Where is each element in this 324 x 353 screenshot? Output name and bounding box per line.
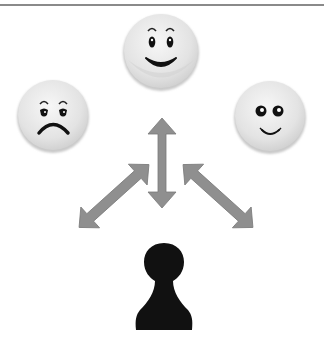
pawn-icon xyxy=(136,243,193,330)
happy-face-icon xyxy=(123,14,199,91)
double-arrow-icon-vertical xyxy=(148,118,176,208)
diagram-canvas xyxy=(0,0,324,353)
sad-face-icon xyxy=(17,80,89,153)
double-arrow-icon-right xyxy=(174,154,263,238)
double-arrow-icon-left xyxy=(70,154,159,238)
content-face-icon xyxy=(234,81,306,154)
